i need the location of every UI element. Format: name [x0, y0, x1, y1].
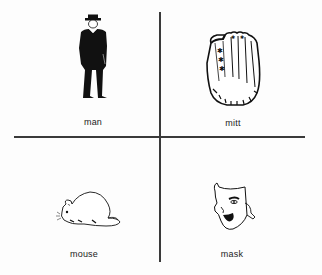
- theater-mask-icon: [209, 181, 261, 235]
- baseball-mitt-icon: ✱ ✱ ✱ ✱ ✱: [203, 31, 267, 109]
- svg-text:✱: ✱: [240, 34, 244, 40]
- svg-text:✱: ✱: [231, 34, 235, 40]
- svg-text:✱: ✱: [218, 56, 224, 64]
- card-label-mask: mask: [221, 249, 243, 259]
- man-silhouette-icon: [72, 14, 114, 100]
- card-label-mouse: mouse: [70, 249, 98, 259]
- card-mitt: ✱ ✱ ✱ ✱ ✱: [203, 31, 267, 109]
- card-mask: [209, 181, 261, 235]
- card-label-man: man: [84, 117, 102, 127]
- svg-text:✱: ✱: [217, 47, 223, 55]
- card-mouse: [56, 190, 124, 230]
- horizontal-divider: [14, 136, 305, 138]
- card-man: [72, 14, 114, 100]
- svg-text:✱: ✱: [219, 65, 225, 73]
- card-label-mitt: mitt: [225, 118, 240, 128]
- mouse-icon: [56, 190, 124, 230]
